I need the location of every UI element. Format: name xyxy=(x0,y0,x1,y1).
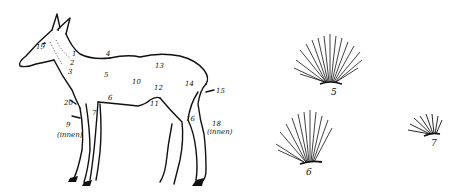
position-label-11: 11 xyxy=(150,101,159,108)
position-label-6: 6 xyxy=(108,95,112,102)
hair-tuft-6-drawing xyxy=(276,110,332,164)
position-label-15: 15 xyxy=(216,88,225,95)
position-label-19: 19 xyxy=(36,44,45,51)
hair-sample-caption-7: 7 xyxy=(431,139,437,148)
position-label-5: 5 xyxy=(104,72,108,79)
position-label-2: 2 xyxy=(70,60,74,67)
position-label-13: 13 xyxy=(155,63,164,70)
hair-tuft-7-drawing xyxy=(408,114,442,136)
innen-label-hind: (innen) xyxy=(207,129,232,136)
position-label-12: 12 xyxy=(154,85,163,92)
position-label-1: 1 xyxy=(72,51,76,58)
position-label-16: 16 xyxy=(186,116,195,123)
innen-label-front: (innen) xyxy=(57,132,82,139)
hair-sample-caption-6: 6 xyxy=(306,168,312,177)
position-label-7: 7 xyxy=(92,110,96,117)
deer-outline-drawing xyxy=(0,0,459,194)
position-label-3: 3 xyxy=(68,69,72,76)
figure: 19 1 2 3 4 5 6 7 10 11 12 13 14 15 16 18… xyxy=(0,0,459,194)
position-label-18: 18 xyxy=(212,121,221,128)
position-label-20: 20 xyxy=(64,100,73,107)
position-label-14: 14 xyxy=(185,81,194,88)
hair-sample-caption-5: 5 xyxy=(331,88,337,97)
position-label-10: 10 xyxy=(132,79,141,86)
position-label-9: 9 xyxy=(66,122,70,129)
hair-tuft-5-drawing xyxy=(294,34,362,84)
position-label-4: 4 xyxy=(106,51,110,58)
